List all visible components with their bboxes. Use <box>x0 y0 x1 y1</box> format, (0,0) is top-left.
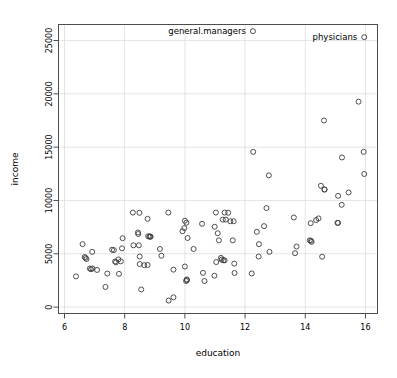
y-tick-label: 15000 <box>45 134 54 159</box>
y-tick-label: 0 <box>45 305 54 310</box>
point-annotation-label: general.managers <box>168 26 246 36</box>
y-tick-label: 5000 <box>45 244 54 264</box>
x-tick-label: 16 <box>360 323 370 332</box>
x-tick-label: 10 <box>180 323 190 332</box>
chart-svg: 68101214160500010000150002000025000 gene… <box>0 0 397 378</box>
y-tick-label: 25000 <box>45 28 54 53</box>
x-tick-label: 14 <box>300 323 310 332</box>
x-axis-label: education <box>196 348 241 358</box>
x-tick-label: 8 <box>122 323 127 332</box>
point-annotation-label: physicians <box>313 32 358 42</box>
chart-background <box>0 0 397 378</box>
y-tick-label: 20000 <box>45 81 54 106</box>
y-tick-label: 10000 <box>45 188 54 213</box>
y-axis-label: income <box>10 152 20 185</box>
x-tick-label: 12 <box>240 323 250 332</box>
scatter-plot-figure: 68101214160500010000150002000025000 gene… <box>0 0 397 378</box>
x-tick-label: 6 <box>62 323 67 332</box>
